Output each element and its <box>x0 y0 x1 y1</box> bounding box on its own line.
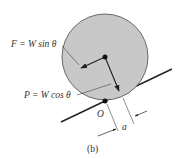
dimension-arrow-right <box>135 111 147 116</box>
contact-point-label: O <box>97 109 104 119</box>
normal-force-label: P = W cos θ <box>23 90 71 100</box>
dimension-extension-line-right <box>123 98 134 124</box>
offset-distance-label: a <box>122 122 127 132</box>
figure-caption: (b) <box>87 144 98 155</box>
dimension-arrow-left <box>98 129 116 136</box>
contact-point-o <box>103 99 108 104</box>
friction-force-label: F = W sin θ <box>10 39 57 49</box>
rolling-disk-free-body-diagram: F = W sin θ P = W cos θ O a (b) <box>0 0 182 159</box>
dimension-extension-line-left <box>107 104 118 131</box>
disk-center-point <box>103 55 108 60</box>
